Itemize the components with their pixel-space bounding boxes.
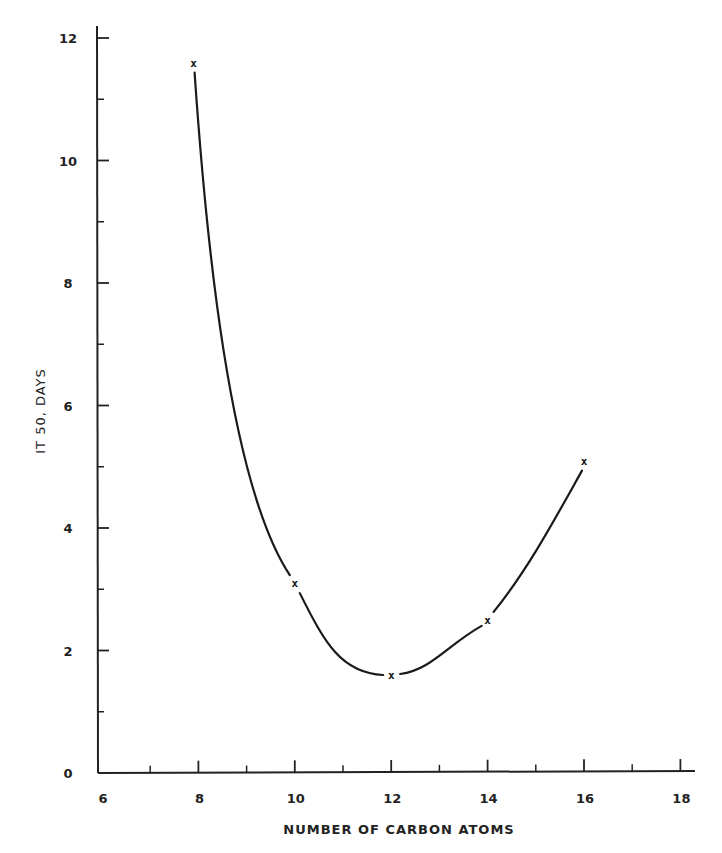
data-point-x-marker: x	[484, 614, 491, 627]
y-tick-label: 10	[59, 154, 77, 169]
x-tick-label: 14	[480, 791, 498, 806]
y-tick-label: 6	[63, 399, 72, 414]
data-point-x-marker: x	[190, 57, 197, 70]
data-markers: xxxxx	[190, 57, 587, 683]
x-tick-label: 8	[195, 791, 204, 806]
data-point-x-marker: x	[388, 669, 395, 682]
x-axis-line	[98, 771, 695, 773]
y-tick-label: 8	[63, 276, 72, 291]
x-tick-label: 12	[383, 791, 401, 806]
data-point-x-marker: x	[581, 455, 588, 468]
data-point-x-marker: x	[291, 577, 298, 590]
x-axis-title: NUMBER OF CARBON ATOMS	[283, 822, 514, 837]
y-tick-label: 2	[63, 644, 72, 659]
y-tick-label: 0	[63, 766, 72, 781]
x-tick-label: 6	[98, 791, 107, 806]
y-axis-ticks: 024681012	[59, 31, 109, 781]
axes	[97, 26, 695, 773]
y-tick-label: 4	[63, 521, 72, 536]
y-tick-label: 12	[59, 31, 77, 46]
x-axis-ticks: 681012141618	[98, 759, 690, 806]
fitted-curve	[195, 73, 582, 676]
chart: 024681012 681012141618 xxxxx NUMBER OF C…	[0, 0, 722, 853]
x-tick-label: 10	[287, 791, 305, 806]
y-axis-title: IT 50, DAYS	[33, 368, 48, 454]
y-axis-line	[97, 26, 98, 773]
x-tick-label: 18	[672, 791, 690, 806]
x-tick-label: 16	[576, 791, 594, 806]
